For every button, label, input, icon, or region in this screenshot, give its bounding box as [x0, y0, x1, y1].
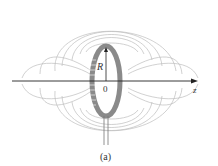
radius-label: R [96, 61, 103, 72]
origin-label: 0 [103, 84, 108, 94]
radius-arrow [104, 47, 108, 81]
z-axis [12, 79, 198, 84]
current-loop-diagram: R 0 z (a) [0, 0, 218, 166]
z-axis-label: z [192, 85, 197, 95]
figure-caption: (a) [100, 151, 111, 163]
field-lines-top [22, 31, 198, 78]
field-lines-bottom [22, 84, 198, 131]
